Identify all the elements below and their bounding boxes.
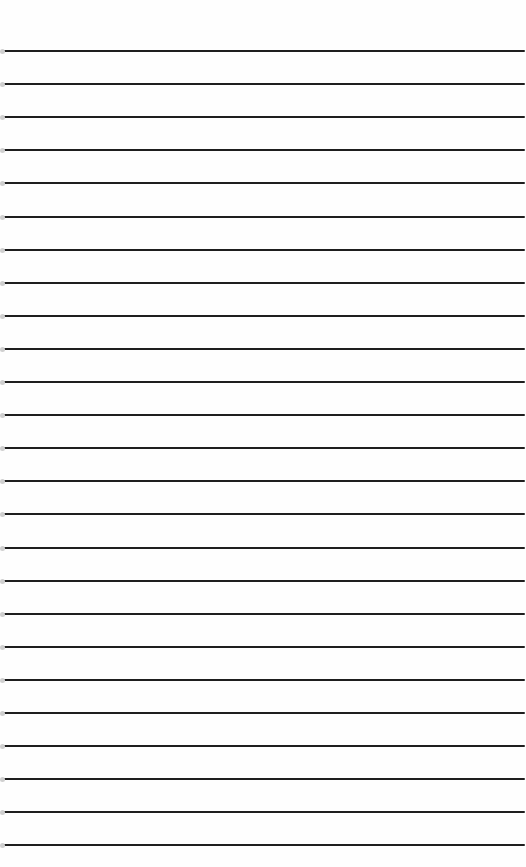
ruled-line [3,547,525,549]
ruled-line [3,447,525,449]
margin-dot [0,215,5,220]
margin-dot [0,248,5,253]
margin-dot [0,512,5,517]
ruled-line [3,83,525,85]
margin-dot [0,82,5,87]
ruled-line [3,811,525,813]
margin-dot [0,711,5,716]
margin-dot [0,579,5,584]
margin-dot [0,612,5,617]
margin-dot [0,678,5,683]
ruled-line [3,745,525,747]
ruled-line [3,348,525,350]
ruled-line [3,216,525,218]
margin-dot [0,810,5,815]
margin-dot [0,744,5,749]
ruled-line [3,116,525,118]
ruled-line [3,414,525,416]
ruled-line [3,613,525,615]
margin-dot [0,380,5,385]
ruled-line [3,679,525,681]
margin-dot [0,49,5,54]
margin-dot [0,115,5,120]
ruled-line [3,149,525,151]
margin-dot [0,843,5,848]
ruled-line [3,513,525,515]
ruled-line [3,646,525,648]
ruled-line [3,778,525,780]
margin-dot [0,413,5,418]
margin-dot [0,347,5,352]
ruled-line [3,580,525,582]
ruled-line [3,381,525,383]
margin-dot [0,645,5,650]
ruled-line [3,315,525,317]
ruled-line [3,712,525,714]
margin-dot [0,314,5,319]
ruled-line [3,844,525,846]
margin-dot [0,148,5,153]
margin-dot [0,546,5,551]
margin-dot [0,181,5,186]
ruled-line [3,249,525,251]
ruled-line [3,282,525,284]
ruled-line [3,50,525,52]
ruled-line [3,182,525,184]
lined-paper-sheet [0,0,526,867]
ruled-line [3,480,525,482]
margin-dot [0,281,5,286]
margin-dot [0,479,5,484]
margin-dot [0,446,5,451]
margin-dot [0,777,5,782]
